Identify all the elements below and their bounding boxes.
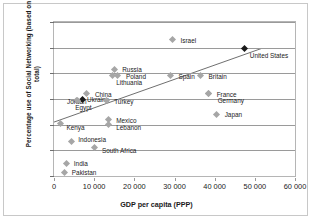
gridline <box>54 150 295 151</box>
data-point-label: Pakistan <box>72 169 97 176</box>
data-point-label: Japan <box>225 111 242 118</box>
gridline <box>54 125 295 126</box>
x-axis-title: GDP per capita (PPP) <box>4 200 309 209</box>
data-point-label: Kenya <box>66 124 84 131</box>
x-tick-mark <box>54 178 55 181</box>
y-tick-mark <box>50 22 54 23</box>
data-point-label: Israel <box>180 36 196 43</box>
data-point-label: Britain <box>209 72 227 79</box>
chart-frame: Percentage use of Social Networking (bas… <box>3 3 308 216</box>
y-tick-mark <box>50 176 54 177</box>
y-tick-mark <box>50 150 54 151</box>
data-point-label: South Africa <box>102 146 136 153</box>
x-tick-mark <box>295 178 296 181</box>
data-point-label: Indonesia <box>78 136 106 143</box>
data-point-label: Egypt <box>75 104 91 111</box>
gridline <box>54 22 295 23</box>
data-point-label: India <box>74 160 88 167</box>
data-point-label: United States <box>250 51 288 58</box>
x-tick-mark <box>134 178 135 181</box>
data-point-label: Mexico <box>116 116 136 123</box>
x-tick-mark <box>215 178 216 181</box>
y-tick-mark <box>50 48 54 49</box>
data-point-label: Lebanon <box>116 123 141 130</box>
x-tick-mark <box>255 178 256 181</box>
data-point-label: Lithuania <box>116 78 142 85</box>
y-axis-title: Percentage use of Social Networking (bas… <box>25 0 41 149</box>
y-tick-mark <box>50 125 54 126</box>
x-tick-label: 60 000 <box>265 182 313 191</box>
y-tick-mark <box>50 73 54 74</box>
gridline <box>54 48 295 49</box>
gridline <box>54 73 295 74</box>
plot-area: 0102030405060010 00020 00030 00040 00050… <box>53 21 296 177</box>
y-tick-mark <box>50 99 54 100</box>
data-point-label: Spain <box>178 72 194 79</box>
x-tick-mark <box>175 178 176 181</box>
data-point-label: Turkey <box>114 98 133 105</box>
x-tick-mark <box>94 178 95 181</box>
data-point-label: Germany <box>218 96 244 103</box>
